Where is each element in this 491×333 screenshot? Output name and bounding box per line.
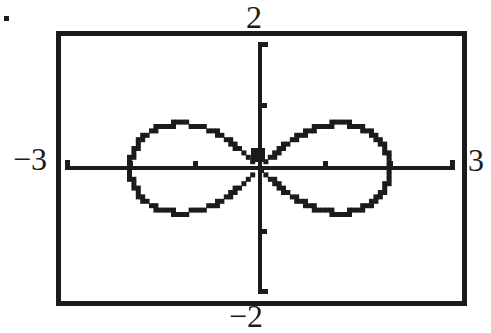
- stray-period-dot: [4, 16, 9, 21]
- window-ymax-label: 2: [246, 1, 262, 33]
- plot-canvas: [61, 36, 462, 301]
- window-xmax-label: 3: [468, 144, 484, 176]
- window-xmin-label: −3: [13, 143, 47, 175]
- textbook-figure: 2 −3 3 −2: [0, 0, 491, 333]
- window-ymin-label: −2: [229, 300, 263, 332]
- calculator-screen-border: [56, 31, 467, 306]
